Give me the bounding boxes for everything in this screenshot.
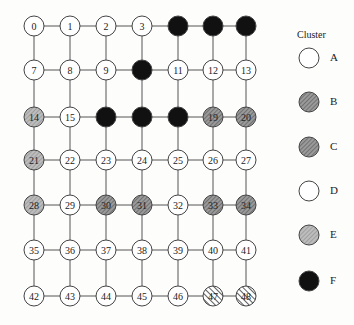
node-26: 26	[203, 150, 223, 170]
node-11: 11	[168, 60, 188, 80]
node-10	[132, 60, 152, 80]
node-2: 2	[96, 16, 116, 36]
node-label: 44	[101, 291, 111, 302]
node-label: 2	[104, 21, 109, 32]
node-19: 19	[203, 107, 223, 127]
node-5	[203, 16, 223, 36]
node-circle	[168, 16, 188, 36]
node-label: 41	[241, 245, 251, 256]
node-44: 44	[96, 286, 116, 306]
legend-label-b: B	[330, 95, 337, 107]
node-43: 43	[60, 286, 80, 306]
node-27: 27	[236, 150, 256, 170]
node-label: 37	[101, 245, 111, 256]
node-label: 38	[137, 245, 147, 256]
node-circle	[132, 60, 152, 80]
node-label: 3	[140, 21, 145, 32]
node-3: 3	[132, 16, 152, 36]
node-label: 43	[65, 291, 75, 302]
node-label: 11	[173, 65, 183, 76]
node-label: 19	[208, 112, 218, 123]
node-23: 23	[96, 150, 116, 170]
node-label: 7	[32, 65, 37, 76]
node-label: 48	[241, 291, 251, 302]
node-label: 26	[208, 155, 218, 166]
legend-swatch-b	[299, 92, 319, 112]
node-22: 22	[60, 150, 80, 170]
node-13: 13	[236, 60, 256, 80]
node-label: 47	[208, 291, 218, 302]
node-label: 24	[137, 155, 147, 166]
node-label: 31	[137, 200, 147, 211]
node-label: 32	[173, 200, 183, 211]
node-17	[132, 107, 152, 127]
node-label: 15	[65, 112, 75, 123]
node-38: 38	[132, 240, 152, 260]
node-18	[168, 107, 188, 127]
grid-nodes: 0123789111213141519202122232425262728293…	[24, 16, 256, 306]
node-label: 46	[173, 291, 183, 302]
node-48: 48	[236, 286, 256, 306]
node-20: 20	[236, 107, 256, 127]
node-circle	[132, 107, 152, 127]
node-label: 35	[29, 245, 39, 256]
node-36: 36	[60, 240, 80, 260]
node-label: 45	[137, 291, 147, 302]
node-label: 22	[65, 155, 75, 166]
node-33: 33	[203, 195, 223, 215]
node-8: 8	[60, 60, 80, 80]
node-label: 1	[68, 21, 73, 32]
node-24: 24	[132, 150, 152, 170]
node-29: 29	[60, 195, 80, 215]
legend-label-c: C	[330, 140, 337, 152]
node-circle	[96, 107, 116, 127]
node-30: 30	[96, 195, 116, 215]
node-16	[96, 107, 116, 127]
node-21: 21	[24, 150, 44, 170]
node-45: 45	[132, 286, 152, 306]
node-label: 33	[208, 200, 218, 211]
node-label: 36	[65, 245, 75, 256]
mesh-cluster-diagram: 0123789111213141519202122232425262728293…	[0, 0, 354, 325]
legend-swatch-a	[299, 48, 319, 68]
node-39: 39	[168, 240, 188, 260]
node-31: 31	[132, 195, 152, 215]
node-label: 42	[29, 291, 39, 302]
node-label: 30	[101, 200, 111, 211]
node-35: 35	[24, 240, 44, 260]
legend-swatches	[299, 48, 319, 291]
node-label: 27	[241, 155, 251, 166]
legend-swatch-d	[299, 181, 319, 201]
node-40: 40	[203, 240, 223, 260]
node-label: 9	[104, 65, 109, 76]
node-28: 28	[24, 195, 44, 215]
node-32: 32	[168, 195, 188, 215]
node-circle	[203, 16, 223, 36]
legend-swatch-c	[299, 137, 319, 157]
node-14: 14	[24, 107, 44, 127]
node-4	[168, 16, 188, 36]
legend-label-d: D	[330, 184, 338, 196]
node-34: 34	[236, 195, 256, 215]
legend-label-a: A	[330, 51, 338, 63]
node-label: 0	[32, 21, 37, 32]
node-circle	[168, 107, 188, 127]
node-label: 8	[68, 65, 73, 76]
node-15: 15	[60, 107, 80, 127]
node-7: 7	[24, 60, 44, 80]
node-label: 20	[241, 112, 251, 123]
node-label: 13	[241, 65, 251, 76]
node-label: 12	[208, 65, 218, 76]
node-circle	[236, 16, 256, 36]
node-label: 14	[29, 112, 39, 123]
node-46: 46	[168, 286, 188, 306]
node-1: 1	[60, 16, 80, 36]
node-label: 23	[101, 155, 111, 166]
legend-swatch-e	[299, 225, 319, 245]
node-9: 9	[96, 60, 116, 80]
node-label: 34	[241, 200, 251, 211]
legend-label-f: F	[330, 274, 336, 286]
node-label: 39	[173, 245, 183, 256]
node-label: 25	[173, 155, 183, 166]
node-41: 41	[236, 240, 256, 260]
